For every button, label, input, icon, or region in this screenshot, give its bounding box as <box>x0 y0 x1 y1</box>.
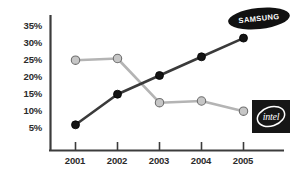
x-tick-label-2003: 2003 <box>141 155 177 166</box>
x-tick-label-2001: 2001 <box>57 155 93 166</box>
data-point <box>239 107 247 115</box>
data-point <box>114 90 122 98</box>
market-share-line-chart: 35% 30% 25% 20% 15% 10% 5% 2001 2002 200… <box>0 0 301 181</box>
intel-logo: intel <box>252 100 290 133</box>
y-tick-label-35: 35% <box>8 20 42 31</box>
samsung-logo-wordmark: SAMSUNG <box>227 5 291 32</box>
x-tick-label-2004: 2004 <box>183 155 219 166</box>
data-point <box>198 53 206 61</box>
data-point <box>197 97 205 105</box>
x-tick-label-2005: 2005 <box>225 155 261 166</box>
y-tick-label-10: 10% <box>8 105 42 116</box>
y-tick-label-25: 25% <box>8 54 42 65</box>
y-tick-label-15: 15% <box>8 88 42 99</box>
data-point <box>71 56 79 64</box>
series-line-samsung <box>76 38 244 125</box>
x-axis-tick-marks <box>76 142 244 150</box>
y-tick-label-5: 5% <box>8 122 42 133</box>
intel-logo-wordmark: intel <box>252 100 290 133</box>
y-tick-label-20: 20% <box>8 71 42 82</box>
data-point <box>240 34 248 42</box>
x-tick-label-2002: 2002 <box>99 155 135 166</box>
y-tick-label-30: 30% <box>8 37 42 48</box>
samsung-logo: SAMSUNG <box>228 8 290 29</box>
data-point <box>72 121 80 129</box>
data-point <box>155 99 163 107</box>
data-point <box>156 72 164 80</box>
data-point <box>113 54 121 62</box>
